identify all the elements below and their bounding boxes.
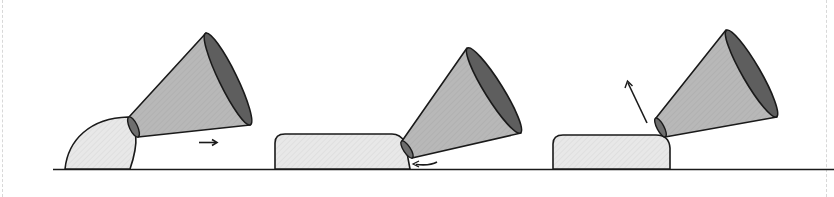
- panel-2: [275, 43, 528, 169]
- flat-slab-shape: [275, 134, 410, 169]
- arrow-right-icon: [199, 140, 217, 146]
- flat-slab-shape: [553, 135, 670, 169]
- curved-arrow-left-icon: [413, 161, 437, 167]
- diagram-canvas: [0, 0, 834, 197]
- panel-3: [553, 26, 784, 169]
- quarter-dome-shape: [65, 117, 136, 169]
- panel-1: [65, 29, 258, 169]
- arrow-up-left-icon: [625, 81, 647, 123]
